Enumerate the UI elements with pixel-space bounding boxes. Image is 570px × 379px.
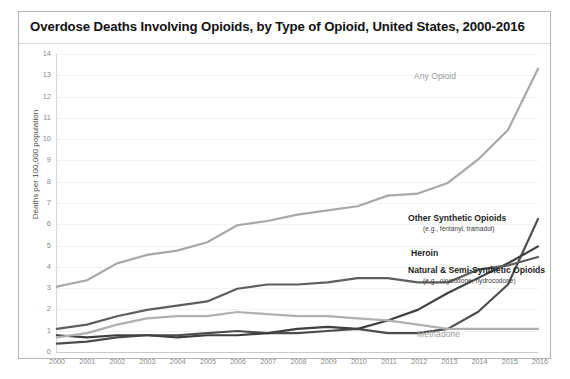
series-sublabel-natural-semi-synthetic: (e.g., oxycodone, hydrocodone) — [423, 277, 516, 284]
x-axis-tick-label: 2010 — [344, 357, 374, 366]
x-axis-tick-label: 2011 — [374, 357, 404, 366]
x-axis-tick-label: 2000 — [42, 357, 72, 366]
x-axis-tick-label: 2014 — [465, 357, 495, 366]
x-axis-tick-label: 2016 — [525, 357, 555, 366]
x-axis-tick-label: 2007 — [253, 357, 283, 366]
x-axis-tick-label: 2008 — [284, 357, 314, 366]
series-label-heroin: Heroin — [411, 248, 438, 258]
series-label-other-synthetic: Other Synthetic Opioids — [408, 213, 506, 223]
x-axis-tick-label: 2013 — [434, 357, 464, 366]
x-axis-tick-label: 2009 — [314, 357, 344, 366]
x-axis-tick-label: 2003 — [133, 357, 163, 366]
x-axis-tick-label: 2002 — [102, 357, 132, 366]
chart-title: Overdose Deaths Involving Opioids, by Ty… — [30, 19, 525, 34]
chart-figure: Overdose Deaths Involving Opioids, by Ty… — [18, 11, 551, 359]
x-axis-tick-label: 2004 — [163, 357, 193, 366]
series-sublabel-other-synthetic: (e.g., fentanyl, tramadol) — [423, 225, 494, 232]
x-axis-tick-label: 2006 — [223, 357, 253, 366]
plot-area: Deaths per 100,000 population 0123456789… — [19, 44, 550, 358]
series-label-any-opioid: Any Opioid — [414, 71, 456, 81]
series-label-natural-semi-synthetic: Natural & Semi-Synthetic Opioids — [408, 265, 545, 275]
x-axis-tick-label: 2012 — [404, 357, 434, 366]
series-line — [57, 69, 538, 287]
series-label-methadone: Methadone — [417, 329, 460, 339]
series-lines — [19, 44, 550, 358]
x-axis-tick-label: 2015 — [495, 357, 525, 366]
x-axis-tick-label: 2001 — [72, 357, 102, 366]
x-axis-tick-label: 2005 — [193, 357, 223, 366]
